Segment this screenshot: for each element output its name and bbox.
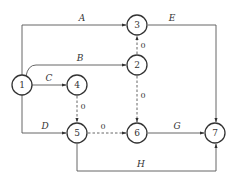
dummy-label-2-3: 0	[140, 41, 145, 50]
node-label-7: 7	[212, 128, 218, 138]
edge-label-h: H	[136, 159, 145, 169]
node-4: 4	[67, 75, 87, 95]
edge-h: H	[77, 144, 216, 171]
node-7: 7	[205, 123, 225, 143]
node-3: 3	[127, 15, 147, 35]
edge-a: A	[22, 13, 126, 75]
edge-e: E	[148, 13, 216, 122]
dummy-edge-2-3: 0	[137, 36, 146, 54]
node-label-1: 1	[19, 80, 25, 90]
node-label-3: 3	[134, 20, 140, 30]
node-2: 2	[127, 55, 147, 75]
node-label-2: 2	[134, 60, 140, 70]
edge-c: C	[32, 73, 66, 85]
edge-label-d: D	[40, 121, 48, 131]
node-1: 1	[12, 75, 32, 95]
edge-label-b: B	[76, 53, 84, 63]
edge-g: G	[148, 121, 204, 133]
dummy-label-4-5: 0	[80, 102, 85, 111]
edge-b: B	[26, 53, 126, 76]
dummy-label-5-6: 0	[100, 122, 105, 131]
network-diagram: A B C D E G H 0 0 0	[0, 0, 239, 180]
edge-label-a: A	[78, 13, 86, 23]
dummy-edge-2-6: 0	[137, 76, 146, 122]
dummy-label-2-6: 0	[140, 91, 145, 100]
edge-label-c: C	[46, 73, 53, 83]
edge-label-e: E	[168, 13, 176, 23]
dummy-edge-5-6: 0	[88, 122, 126, 133]
edge-d: D	[22, 95, 66, 133]
node-label-5: 5	[74, 128, 80, 138]
node-label-4: 4	[74, 80, 80, 90]
edge-label-g: G	[173, 121, 180, 131]
dummy-edge-4-5: 0	[77, 96, 86, 122]
node-5: 5	[67, 123, 87, 143]
node-6: 6	[127, 123, 147, 143]
node-label-6: 6	[134, 128, 140, 138]
